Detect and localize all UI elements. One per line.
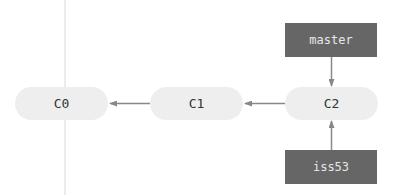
commit-c1: C1 xyxy=(150,87,243,120)
commit-label: C0 xyxy=(54,96,70,111)
branch-iss53: iss53 xyxy=(285,150,377,184)
commit-label: C2 xyxy=(324,96,340,111)
branch-master: master xyxy=(285,23,377,57)
commit-label: C1 xyxy=(189,96,205,111)
branch-label: iss53 xyxy=(313,160,349,174)
commit-c0: C0 xyxy=(15,87,108,120)
commit-c2: C2 xyxy=(285,87,378,120)
branch-label: master xyxy=(309,33,352,47)
